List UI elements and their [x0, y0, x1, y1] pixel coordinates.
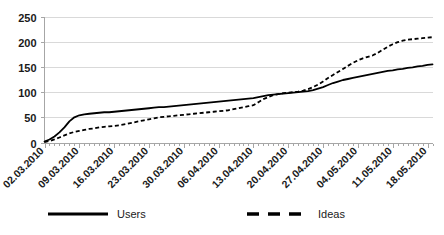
line-chart: 050100150200250 02.03.201009.03.201016.0… [0, 0, 444, 235]
series-line-ideas [45, 37, 433, 142]
y-tick-label: 100 [18, 87, 36, 99]
y-tick-label: 150 [18, 62, 36, 74]
gridlines [45, 18, 433, 144]
series-lines [45, 37, 433, 142]
chart-legend: UsersIdeas [48, 208, 345, 220]
series-line-users [45, 64, 433, 141]
x-axis [45, 144, 434, 148]
y-tick-label: 50 [24, 112, 36, 124]
legend-label-ideas: Ideas [318, 208, 345, 220]
y-tick-label: 200 [18, 37, 36, 49]
x-tick-labels: 02.03.201009.03.201016.03.201023.03.2010… [0, 144, 429, 190]
legend-label-users: Users [117, 208, 146, 220]
y-axis: 050100150200250 [18, 12, 44, 150]
y-tick-label: 250 [18, 12, 36, 24]
chart-canvas: 050100150200250 02.03.201009.03.201016.0… [0, 0, 444, 235]
